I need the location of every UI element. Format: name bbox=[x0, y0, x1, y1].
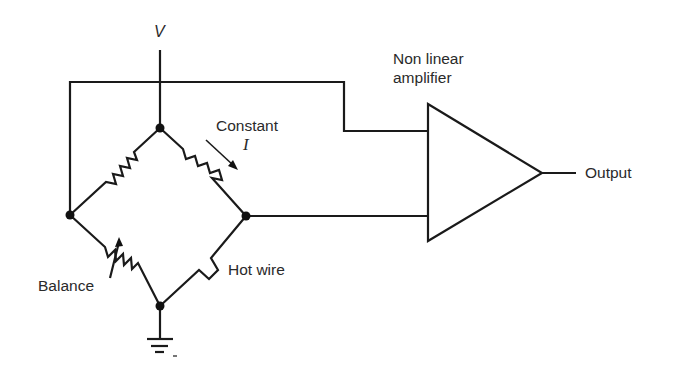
node-top bbox=[156, 124, 165, 133]
hot-wire-label: Hot wire bbox=[228, 262, 285, 278]
variable-resistor-arrowhead-icon bbox=[115, 237, 123, 247]
node-bottom bbox=[156, 302, 165, 311]
node-right bbox=[242, 212, 251, 221]
constant-current-label: Constant bbox=[216, 118, 278, 134]
amplifier-label-line1: Non linear bbox=[393, 51, 464, 67]
balance-label: Balance bbox=[38, 278, 94, 294]
ground-icon bbox=[147, 339, 177, 356]
amplifier-label-line2: amplifier bbox=[393, 70, 452, 86]
current-symbol-label: I bbox=[243, 136, 249, 153]
circuit-schematic bbox=[0, 0, 675, 377]
resistor-upper-left bbox=[70, 128, 160, 215]
output-label: Output bbox=[585, 165, 632, 181]
circuit-diagram: V Constant I Non linear amplifier Output… bbox=[0, 0, 675, 377]
resistor-upper-right bbox=[160, 128, 246, 216]
amplifier-upper-input-wire bbox=[70, 82, 428, 215]
supply-voltage-label: V bbox=[154, 24, 165, 40]
amplifier-triangle-icon bbox=[428, 104, 542, 241]
node-left bbox=[66, 211, 75, 220]
current-arrow-shaft bbox=[206, 140, 233, 165]
